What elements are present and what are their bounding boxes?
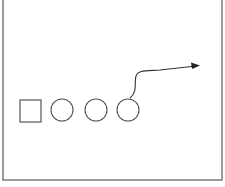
diagram-canvas (0, 0, 225, 187)
circle-shape-3 (117, 99, 139, 121)
frame-border (3, 0, 222, 180)
circle-shape-1 (51, 99, 73, 121)
curved-arrow-line (130, 66, 196, 98)
arrow-head-icon (191, 63, 200, 70)
square-shape (20, 100, 41, 122)
circle-shape-2 (85, 99, 107, 121)
